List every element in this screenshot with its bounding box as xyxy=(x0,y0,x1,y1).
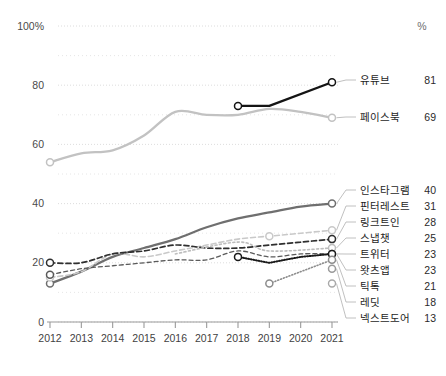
y-axis-tick-80: 80 xyxy=(32,79,44,91)
series-marker-tiktok-2021 xyxy=(329,256,336,263)
legend-leader-line xyxy=(337,190,357,204)
legend-label-핀터레스트: 핀터레스트 xyxy=(360,200,410,212)
legend-value-페이스북: 69 xyxy=(424,111,436,123)
legend-value-스냅챗: 25 xyxy=(424,232,436,244)
series-marker-instagram-2021 xyxy=(329,200,336,207)
x-axis-tick-2018: 2018 xyxy=(226,332,250,344)
legend-label-링크트인: 링크트인 xyxy=(360,216,400,228)
series-marker-twitter-2012 xyxy=(47,271,54,278)
legend-leader-line xyxy=(337,284,357,318)
x-axis-tick-2020: 2020 xyxy=(289,332,313,344)
series-marker-linkedin-2021 xyxy=(329,236,336,243)
legend-row-페이스북[interactable]: 페이스북69 xyxy=(337,111,437,123)
legend-label-트위터: 트위터 xyxy=(360,248,390,260)
series-marker-pinterest-2019 xyxy=(266,233,273,240)
legend-label-레딧: 레딧 xyxy=(360,296,380,308)
chart-canvas: 100%806040200%20122013201420152016201720… xyxy=(0,0,446,376)
legend-label-페이스북: 페이스북 xyxy=(360,111,400,123)
legend-value-핀터레스트: 31 xyxy=(424,200,436,212)
x-axis-tick-2015: 2015 xyxy=(132,332,156,344)
series-marker-tiktok-2019 xyxy=(266,280,273,287)
x-axis-tick-2012: 2012 xyxy=(38,332,62,344)
legend-leader-line xyxy=(337,80,357,82)
legend-value-유튜브: 81 xyxy=(424,74,436,86)
series-line-pinterest xyxy=(50,230,332,277)
legend-value-인스타그램: 40 xyxy=(424,184,436,196)
series-marker-linkedin-2012 xyxy=(47,259,54,266)
legend-label-인스타그램: 인스타그램 xyxy=(360,184,410,196)
legend-row-트위터[interactable]: 트위터23 xyxy=(337,248,437,260)
legend-row-스냅챗[interactable]: 스냅챗25 xyxy=(337,232,437,248)
legend-label-왓츠앱: 왓츠앱 xyxy=(360,264,390,276)
y-axis-tick-0: 0 xyxy=(38,316,44,328)
legend-label-유튜브: 유튜브 xyxy=(360,74,390,86)
legend-leader-line xyxy=(337,206,357,230)
legend-leader-line xyxy=(337,269,357,302)
x-axis-tick-2017: 2017 xyxy=(195,332,219,344)
y-axis-tick-40: 40 xyxy=(32,197,44,209)
series-line-youtube xyxy=(238,82,332,106)
percent-header: % xyxy=(417,20,426,32)
x-axis-tick-2016: 2016 xyxy=(164,332,188,344)
legend-label-넥스트도어: 넥스트도어 xyxy=(360,312,410,324)
legend-label-틱톡: 틱톡 xyxy=(360,280,380,292)
series-marker-youtube-2021 xyxy=(329,79,336,86)
series-marker-whatsapp-2018 xyxy=(235,253,242,260)
series-line-tiktok xyxy=(269,260,332,284)
series-line-facebook xyxy=(50,109,332,162)
legend-value-레딧: 18 xyxy=(424,296,436,308)
legend-value-트위터: 23 xyxy=(424,248,436,260)
y-axis-tick-20: 20 xyxy=(32,256,44,268)
legend-value-왓츠앱: 23 xyxy=(424,264,436,276)
legend-label-스냅챗: 스냅챗 xyxy=(360,232,390,244)
legend-row-넥스트도어[interactable]: 넥스트도어13 xyxy=(337,284,437,324)
legend-value-틱톡: 21 xyxy=(424,280,436,292)
series-marker-reddit-2021 xyxy=(329,265,336,272)
social-media-usage-line-chart: 100%806040200%20122013201420152016201720… xyxy=(0,0,446,376)
series-line-snapchat xyxy=(175,242,332,254)
legend-leader-line xyxy=(337,260,357,286)
series-marker-facebook-2021 xyxy=(329,114,336,121)
legend-leader-line xyxy=(337,117,357,118)
x-axis-tick-2013: 2013 xyxy=(70,332,94,344)
x-axis-tick-2019: 2019 xyxy=(258,332,282,344)
series-marker-facebook-2012 xyxy=(47,159,54,166)
x-axis-tick-2014: 2014 xyxy=(101,332,125,344)
legend-leader-line xyxy=(337,238,357,248)
y-axis-tick-100pct: 100% xyxy=(17,20,44,32)
legend-value-링크트인: 28 xyxy=(424,216,436,228)
series-marker-nextdoor-2021 xyxy=(329,280,336,287)
legend-leader-line xyxy=(337,222,357,239)
series-marker-pinterest-2021 xyxy=(329,227,336,234)
x-axis-tick-2021: 2021 xyxy=(320,332,344,344)
legend-value-넥스트도어: 13 xyxy=(424,312,436,324)
y-axis-tick-60: 60 xyxy=(32,138,44,150)
series-marker-youtube-2018 xyxy=(235,102,242,109)
legend-row-유튜브[interactable]: 유튜브81 xyxy=(337,74,437,86)
